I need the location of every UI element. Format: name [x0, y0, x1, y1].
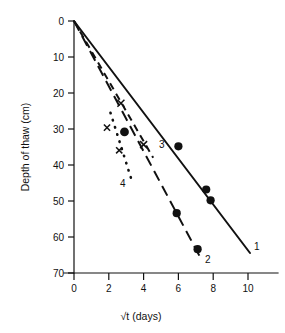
series-1-label: 1: [254, 241, 260, 252]
y-tick-label: 30: [53, 124, 65, 135]
series-3-label: 3: [159, 139, 165, 150]
series-2-line: [74, 21, 202, 260]
series-4-line: [111, 113, 132, 180]
x-tick-label: 0: [71, 283, 77, 294]
x-axis-ticks: [74, 273, 248, 280]
x-tick-label: 4: [141, 283, 147, 294]
series-2-label: 2: [205, 254, 211, 265]
y-tick-label: 70: [53, 268, 65, 279]
series-4-data-point: [104, 125, 110, 131]
series-1-line: [74, 21, 250, 253]
series-2-data-point: [194, 245, 202, 253]
series-2-data-point: [173, 209, 181, 217]
series-4-data-point: [116, 147, 122, 153]
x-tick-label: 10: [242, 283, 254, 294]
series-2-group: [74, 21, 202, 260]
series-4-label: 4: [120, 178, 126, 189]
y-tick-label: 0: [58, 16, 64, 27]
x-axis-title: √t (days): [121, 310, 162, 322]
x-axis-title-text: √t (days): [121, 310, 162, 322]
series-1-data-point: [202, 185, 210, 193]
series-1-group: [74, 21, 250, 253]
x-tick-label: 8: [210, 283, 216, 294]
series-1-data-point: [174, 142, 182, 150]
chart-figure: 0 10 20 30 40 50 60 70 0 2 4 6 8 10: [0, 0, 285, 333]
series-1-data-point: [207, 196, 215, 204]
y-tick-label: 20: [53, 88, 65, 99]
x-tick-label: 2: [106, 283, 112, 294]
series-4-group: [104, 113, 131, 180]
x-tick-label: 6: [176, 283, 182, 294]
thaw-depth-chart: 0 10 20 30 40 50 60 70 0 2 4 6 8 10: [0, 0, 285, 333]
y-axis-tick-labels: 0 10 20 30 40 50 60 70: [53, 16, 65, 279]
y-tick-label: 50: [53, 196, 65, 207]
y-tick-label: 40: [53, 160, 65, 171]
y-tick-label: 10: [53, 52, 65, 63]
series-2-data-point: [120, 127, 129, 136]
y-axis-title: Depth of thaw (cm): [19, 103, 31, 192]
y-axis-ticks: [68, 21, 74, 273]
x-axis-tick-labels: 0 2 4 6 8 10: [71, 283, 254, 294]
y-tick-label: 60: [53, 232, 65, 243]
